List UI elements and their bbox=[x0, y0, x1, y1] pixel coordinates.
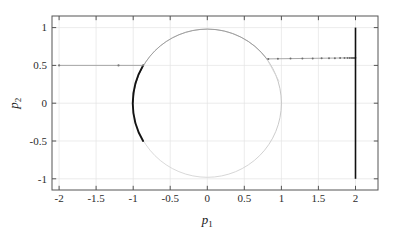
y-tick-label: 1 bbox=[42, 21, 48, 33]
y-axis-title-sub: 2 bbox=[13, 98, 23, 103]
x-tick-label: 1 bbox=[279, 192, 285, 204]
x-tick-label: 0.5 bbox=[237, 192, 251, 204]
bifurcation-plot: -2 -1.5 -1 -0.5 0 0.5 1 1.5 2 -1 -0.5 0 … bbox=[0, 0, 402, 237]
y-tick-label: 0.5 bbox=[33, 59, 47, 71]
x-tick-label: 2 bbox=[353, 192, 359, 204]
y-tick-labels: -1 -0.5 0 0.5 1 bbox=[30, 21, 48, 184]
x-axis-title: p1 bbox=[201, 212, 213, 229]
x-axis-title-sub: 1 bbox=[208, 219, 213, 229]
x-tick-label: 1.5 bbox=[312, 192, 326, 204]
y-axis-title: p2 bbox=[6, 98, 23, 110]
y-tick-label: -1 bbox=[38, 173, 47, 185]
x-tick-labels: -2 -1.5 -1 -0.5 0 0.5 1 1.5 2 bbox=[55, 192, 359, 204]
x-tick-label: -1 bbox=[129, 192, 138, 204]
x-tick-label: -0.5 bbox=[161, 192, 179, 204]
x-tick-label: -2 bbox=[55, 192, 64, 204]
y-tick-label: 0 bbox=[42, 97, 48, 109]
x-tick-label: 0 bbox=[205, 192, 211, 204]
y-tick-label: -0.5 bbox=[30, 135, 48, 147]
figure-container: -2 -1.5 -1 -0.5 0 0.5 1 1.5 2 -1 -0.5 0 … bbox=[0, 0, 402, 237]
x-tick-label: -1.5 bbox=[87, 192, 105, 204]
